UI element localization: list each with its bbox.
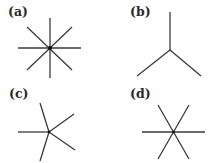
star-5-spoke-figure — [18, 103, 75, 161]
diagram-canvas — [0, 0, 215, 163]
star-8-spoke-figure — [18, 18, 81, 78]
star-6-spoke-figure — [142, 105, 205, 159]
trigonal-junction-figure — [137, 12, 201, 76]
